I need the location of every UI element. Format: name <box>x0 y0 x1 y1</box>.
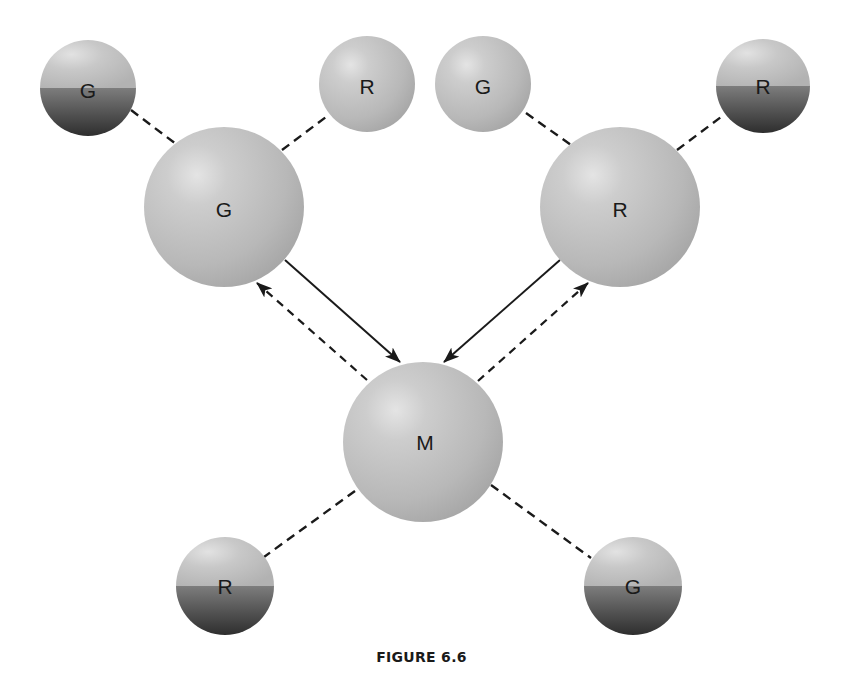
edge-m-to-r-small-bottom-left <box>264 491 355 557</box>
node-label: R <box>755 75 770 98</box>
node-g-small-top-left: G <box>40 40 136 136</box>
node-label: G <box>625 575 641 598</box>
diagram-canvas: G R G R G R <box>0 0 843 694</box>
node-r-small-bottom-left: R <box>176 537 274 635</box>
node-label: G <box>216 198 232 221</box>
node-label: G <box>80 79 96 102</box>
node-label: G <box>475 75 491 98</box>
node-g-small-bottom-right: G <box>584 537 682 635</box>
edge-r-small-top-right-to-r-large <box>677 117 721 150</box>
node-label: R <box>612 198 627 221</box>
arrow-m-to-r-large-dashed <box>478 283 588 381</box>
edge-g-small-top-left-to-g-large <box>131 110 176 144</box>
node-label: R <box>217 575 232 598</box>
edge-r-small-top-left-to-g-large <box>282 117 326 150</box>
edge-g-small-top-right-to-r-large <box>526 113 571 145</box>
node-r-large: R <box>540 127 700 287</box>
node-label: M <box>416 431 434 454</box>
figure-caption: FIGURE 6.6 <box>0 649 843 665</box>
node-r-small-top-left: R <box>319 36 415 132</box>
node-g-large: G <box>144 127 304 287</box>
nodes: G R G R G R <box>40 36 810 635</box>
edge-m-to-g-small-bottom-right <box>491 485 591 558</box>
arrow-m-to-g-large-dashed <box>257 283 367 380</box>
node-g-small-top-right: G <box>435 36 531 132</box>
node-m-large: M <box>343 362 503 522</box>
node-label: R <box>359 75 374 98</box>
arrow-r-large-to-m-solid <box>444 260 560 362</box>
arrow-g-large-to-m-solid <box>285 260 400 362</box>
node-r-small-top-right: R <box>716 39 810 133</box>
